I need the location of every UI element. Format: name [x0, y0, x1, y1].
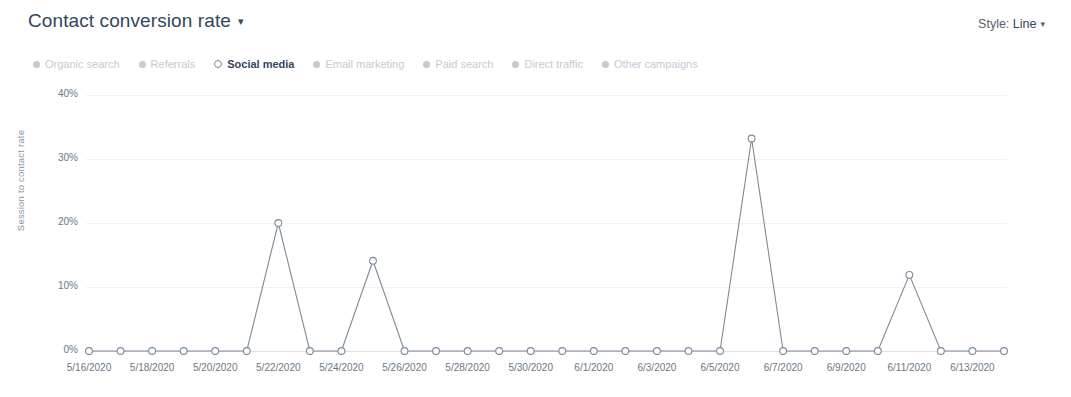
- data-point-marker[interactable]: [559, 348, 566, 355]
- legend-marker-icon: [512, 61, 519, 68]
- legend-item-label: Referrals: [151, 58, 196, 70]
- series-line: [89, 139, 1004, 351]
- legend-item-email-marketing[interactable]: Email marketing: [313, 58, 404, 70]
- data-point-marker[interactable]: [338, 348, 345, 355]
- gridline: [86, 95, 1007, 96]
- data-point-marker[interactable]: [433, 348, 440, 355]
- data-point-marker[interactable]: [464, 348, 471, 355]
- gridline: [86, 159, 1007, 160]
- legend-marker-icon: [139, 61, 146, 68]
- gridline: [86, 287, 1007, 288]
- data-point-marker[interactable]: [1001, 348, 1008, 355]
- x-axis-tick-label: 6/13/2020: [950, 362, 995, 373]
- page-title: Contact conversion rate: [28, 10, 231, 31]
- x-axis-line: [86, 351, 1007, 352]
- data-point-marker[interactable]: [843, 348, 850, 355]
- y-axis-tick-label: 30%: [38, 152, 78, 163]
- data-point-marker[interactable]: [685, 348, 692, 355]
- x-axis-tick-label: 6/7/2020: [764, 362, 803, 373]
- chart-title-dropdown[interactable]: Contact conversion rate▾: [28, 10, 244, 32]
- x-axis-tick-label: 6/3/2020: [637, 362, 676, 373]
- x-axis-tick-label: 5/18/2020: [130, 362, 175, 373]
- data-point-marker[interactable]: [370, 257, 377, 264]
- data-point-marker[interactable]: [527, 348, 534, 355]
- data-point-marker[interactable]: [906, 271, 913, 278]
- style-dropdown[interactable]: Style: Line▾: [978, 17, 1045, 31]
- data-point-marker[interactable]: [117, 348, 124, 355]
- data-point-marker[interactable]: [937, 348, 944, 355]
- data-point-marker[interactable]: [780, 348, 787, 355]
- data-point-marker[interactable]: [654, 348, 661, 355]
- data-point-marker[interactable]: [212, 348, 219, 355]
- data-point-marker[interactable]: [590, 348, 597, 355]
- y-axis-tick-label: 20%: [38, 216, 78, 227]
- legend-item-label: Paid search: [435, 58, 493, 70]
- legend-item-label: Social media: [227, 58, 294, 70]
- x-axis-tick-label: 5/22/2020: [256, 362, 301, 373]
- legend-item-label: Other campaigns: [614, 58, 698, 70]
- data-point-marker[interactable]: [496, 348, 503, 355]
- data-point-marker[interactable]: [306, 348, 313, 355]
- x-axis-tick-label: 6/1/2020: [574, 362, 613, 373]
- legend-item-organic-search[interactable]: Organic search: [33, 58, 120, 70]
- x-axis-tick-label: 5/26/2020: [382, 362, 427, 373]
- y-axis-tick-label: 40%: [38, 88, 78, 99]
- y-axis-tick-label: 0%: [38, 344, 78, 355]
- y-axis-tick-label: 10%: [38, 280, 78, 291]
- x-axis-tick-label: 6/5/2020: [701, 362, 740, 373]
- x-axis-tick-label: 6/9/2020: [827, 362, 866, 373]
- x-axis-tick-label: 5/28/2020: [445, 362, 490, 373]
- data-point-marker[interactable]: [401, 348, 408, 355]
- legend-marker-icon: [33, 61, 40, 68]
- x-axis-tick-label: 5/16/2020: [67, 362, 112, 373]
- chevron-down-icon: ▾: [238, 15, 244, 28]
- chart-card: Contact conversion rate▾ Style: Line▾ Or…: [0, 0, 1071, 397]
- legend-marker-icon: [423, 61, 430, 68]
- data-point-marker[interactable]: [969, 348, 976, 355]
- legend-item-label: Organic search: [45, 58, 120, 70]
- chevron-down-icon: ▾: [1040, 19, 1045, 29]
- x-axis-tick-label: 5/24/2020: [319, 362, 364, 373]
- legend-item-paid-search[interactable]: Paid search: [423, 58, 493, 70]
- gridline: [86, 223, 1007, 224]
- data-point-marker[interactable]: [180, 348, 187, 355]
- x-axis-tick-label: 6/11/2020: [887, 362, 931, 373]
- legend-item-direct-traffic[interactable]: Direct traffic: [512, 58, 582, 70]
- data-point-marker[interactable]: [86, 348, 93, 355]
- data-point-marker[interactable]: [717, 348, 724, 355]
- data-point-marker[interactable]: [622, 348, 629, 355]
- legend-item-label: Direct traffic: [524, 58, 582, 70]
- legend-marker-icon: [214, 60, 222, 68]
- legend-item-social-media[interactable]: Social media: [214, 58, 294, 70]
- legend-marker-icon: [313, 61, 320, 68]
- chart-header: Contact conversion rate▾ Style: Line▾: [0, 0, 1071, 44]
- data-point-marker[interactable]: [275, 220, 282, 227]
- chart-legend: Organic searchReferralsSocial mediaEmail…: [33, 58, 717, 70]
- x-axis-tick-label: 5/30/2020: [508, 362, 553, 373]
- legend-marker-icon: [602, 61, 609, 68]
- legend-item-other-campaigns[interactable]: Other campaigns: [602, 58, 698, 70]
- data-point-marker[interactable]: [748, 135, 755, 142]
- data-point-marker[interactable]: [874, 348, 881, 355]
- style-label: Style:: [978, 17, 1009, 31]
- data-point-marker[interactable]: [811, 348, 818, 355]
- data-point-marker[interactable]: [243, 348, 250, 355]
- x-axis-tick-label: 5/20/2020: [193, 362, 238, 373]
- style-value: Line: [1013, 17, 1037, 31]
- data-point-marker[interactable]: [149, 348, 156, 355]
- legend-item-label: Email marketing: [325, 58, 404, 70]
- y-axis-title: Session to contact rate: [15, 101, 26, 261]
- legend-item-referrals[interactable]: Referrals: [139, 58, 196, 70]
